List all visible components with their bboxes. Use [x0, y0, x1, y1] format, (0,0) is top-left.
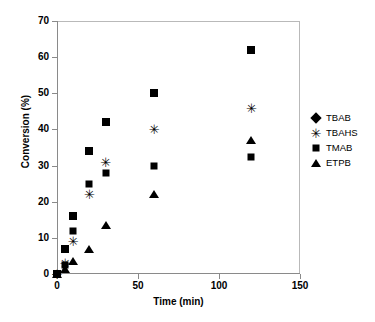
legend-item-etpb[interactable]: ETPB — [310, 155, 375, 170]
diamond-marker-icon — [150, 89, 158, 97]
y-tick — [52, 57, 57, 58]
x-axis-line — [57, 273, 300, 274]
legend-label: TMAB — [326, 142, 352, 153]
triangle-marker-icon — [246, 136, 256, 144]
asterisk-marker-icon: ✳ — [149, 123, 160, 136]
x-axis-title: Time (min) — [57, 296, 300, 307]
asterisk-marker-icon: ✳ — [68, 235, 79, 248]
asterisk-marker-icon: ✳ — [100, 155, 111, 168]
x-tick — [219, 274, 220, 279]
triangle-marker-icon — [311, 159, 321, 167]
y-tick — [52, 166, 57, 167]
square-marker-icon — [70, 227, 77, 234]
chart-legend: TBAB✳TBAHSTMABETPB — [310, 110, 375, 170]
square-marker-icon — [151, 162, 158, 169]
triangle-marker-icon — [68, 257, 78, 265]
legend-marker — [310, 141, 322, 154]
x-tick-label: 100 — [204, 281, 234, 291]
scatter-chart: 010203040506070 050100150 ✳✳✳✳✳✳✳ Time (… — [0, 0, 375, 322]
legend-marker — [310, 156, 322, 169]
y-tick — [52, 202, 57, 203]
y-axis-title: Conversion (%) — [20, 62, 31, 202]
x-tick-label: 50 — [123, 281, 153, 291]
plot-frame — [57, 21, 300, 274]
triangle-marker-icon — [60, 265, 70, 273]
diamond-marker-icon — [102, 118, 110, 126]
legend-marker: ✳ — [310, 126, 322, 139]
asterisk-marker-icon: ✳ — [84, 188, 95, 201]
y-tick-label: 0 — [23, 269, 49, 279]
triangle-marker-icon — [101, 221, 111, 229]
square-marker-icon — [313, 144, 320, 151]
y-tick-label: 10 — [23, 233, 49, 243]
diamond-marker-icon — [69, 212, 77, 220]
y-axis-line — [57, 21, 58, 274]
legend-item-tbab[interactable]: TBAB — [310, 110, 375, 125]
asterisk-marker-icon: ✳ — [246, 101, 257, 114]
triangle-marker-icon — [84, 245, 94, 253]
y-tick — [52, 21, 57, 22]
legend-marker — [310, 111, 322, 124]
y-tick-label: 70 — [23, 16, 49, 26]
legend-label: TBAHS — [326, 127, 358, 138]
legend-label: TBAB — [326, 112, 351, 123]
legend-item-tmab[interactable]: TMAB — [310, 140, 375, 155]
y-tick — [52, 93, 57, 94]
asterisk-marker-icon: ✳ — [311, 125, 322, 140]
y-tick — [52, 238, 57, 239]
diamond-marker-icon — [85, 147, 93, 155]
x-tick-label: 150 — [285, 281, 315, 291]
diamond-marker-icon — [310, 112, 321, 123]
x-tick-label: 0 — [42, 281, 72, 291]
legend-label: ETPB — [326, 157, 351, 168]
x-tick — [138, 274, 139, 279]
y-tick — [52, 129, 57, 130]
square-marker-icon — [248, 153, 255, 160]
square-marker-icon — [86, 180, 93, 187]
square-marker-icon — [102, 169, 109, 176]
legend-item-tbahs[interactable]: ✳TBAHS — [310, 125, 375, 140]
x-tick — [300, 274, 301, 279]
triangle-marker-icon — [149, 190, 159, 198]
diamond-marker-icon — [247, 46, 255, 54]
